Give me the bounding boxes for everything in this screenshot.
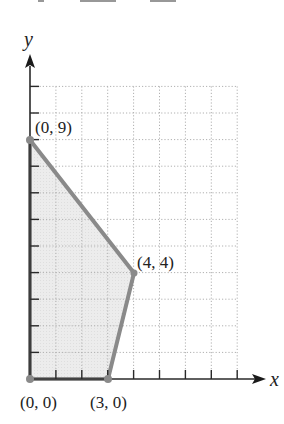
label-3-0: (3, 0): [90, 393, 127, 412]
feasible-region-chart: y x (0, 9) (4, 4) (0, 0) (3, 0): [0, 0, 284, 424]
label-0-0: (0, 0): [20, 393, 57, 412]
label-0-9: (0, 9): [35, 118, 72, 137]
point-0-0: [26, 375, 34, 383]
point-3-0: [104, 375, 112, 383]
y-axis-arrow-icon: [25, 54, 35, 68]
y-axis-label: y: [22, 28, 33, 51]
x-axis-label: x: [269, 368, 279, 390]
label-4-4: (4, 4): [137, 253, 174, 272]
cropped-heading-fragment: [38, 0, 176, 2]
point-0-9: [26, 136, 34, 144]
